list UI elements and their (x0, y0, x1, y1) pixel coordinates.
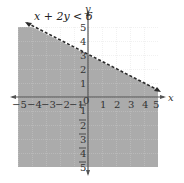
y-tick-neg1: 1 (80, 105, 86, 116)
y-tick-5: 5 (80, 22, 86, 33)
boundary-arrow-left (25, 22, 32, 27)
x-axis-label: x (168, 92, 174, 103)
x-tick-1: 1 (100, 99, 106, 110)
x-tick-5: 5 (153, 99, 159, 110)
x-tick-neg2: −2 (55, 99, 70, 110)
y-tick-neg4: 4 (80, 148, 86, 159)
x-tick-neg3: −3 (41, 99, 56, 110)
y-tick-2: 2 (80, 64, 86, 75)
x-tick-neg5: −5 (12, 99, 27, 110)
y-tick-3: 3 (80, 50, 86, 61)
x-tick-4: 4 (142, 99, 148, 110)
y-tick-neg5: 5 (80, 162, 86, 173)
x-tick-3: 3 (128, 99, 134, 110)
x-tick-neg4: −4 (27, 99, 42, 110)
y-axis-arrow-down (86, 170, 90, 176)
y-tick-neg3: 3 (80, 134, 86, 145)
y-tick-1: 1 (80, 78, 86, 89)
x-tick-2: 2 (114, 99, 120, 110)
x-axis-arrow-right (160, 95, 166, 99)
y-tick-neg2: 2 (80, 120, 86, 131)
inequality-graph: x y x + 2y < 6 −5 −4 −3 −2 −1 0 1 2 3 4 … (0, 0, 184, 183)
y-tick-4: 4 (80, 36, 86, 47)
